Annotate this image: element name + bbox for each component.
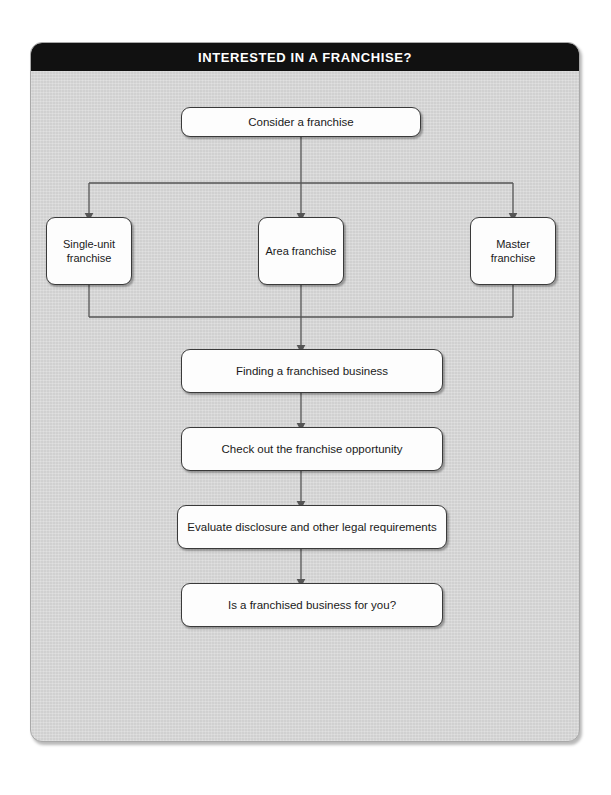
figure-card: INTERESTED IN A FRANCHISE? [30, 42, 580, 742]
node-label: Finding a franchised business [236, 364, 388, 379]
node-label: Check out the franchise opportunity [222, 442, 403, 457]
node-is-a-franchised-business-for-you[interactable]: Is a franchised business for you? [181, 583, 443, 627]
node-finding-a-franchised-business[interactable]: Finding a franchised business [181, 349, 443, 393]
card-header: INTERESTED IN A FRANCHISE? [31, 43, 579, 71]
node-label: Consider a franchise [248, 115, 353, 130]
node-label: Is a franchised business for you? [228, 598, 396, 613]
node-area-franchise[interactable]: Area franchise [258, 217, 344, 285]
node-evaluate-disclosure-and-other-legal-requirements[interactable]: Evaluate disclosure and other legal requ… [177, 505, 447, 549]
node-master-franchise[interactable]: Master franchise [470, 217, 556, 285]
node-label: Area franchise [266, 244, 337, 258]
flowchart: Consider a franchise Single-unit franchi… [31, 71, 580, 742]
flowchart-connectors [31, 71, 580, 742]
node-label: Master franchise [477, 237, 549, 265]
node-check-out-the-franchise-opportunity[interactable]: Check out the franchise opportunity [181, 427, 443, 471]
node-single-unit-franchise[interactable]: Single-unit franchise [46, 217, 132, 285]
node-label: Single-unit franchise [53, 237, 125, 265]
node-label: Evaluate disclosure and other legal requ… [187, 520, 436, 535]
node-consider-a-franchise[interactable]: Consider a franchise [181, 107, 421, 137]
page-title: INTERESTED IN A FRANCHISE? [198, 50, 412, 65]
